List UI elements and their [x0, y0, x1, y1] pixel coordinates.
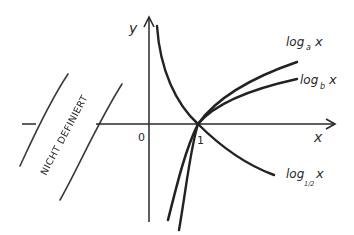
label-log-half-arg: x — [315, 166, 324, 181]
undefined-region-right-border — [60, 84, 122, 200]
y-axis-label: y — [128, 20, 138, 36]
label-log-half-sub: 1/2 — [304, 180, 314, 188]
label-log-a-base: log — [286, 35, 305, 49]
curve-log-b — [179, 79, 297, 230]
y-axis: y — [128, 17, 154, 222]
curve-log-half — [157, 26, 274, 175]
label-log-a-sub: a — [306, 43, 311, 52]
label-log-b-arg: x — [328, 72, 337, 87]
x-axis-label: x — [313, 129, 323, 145]
origin-label: 0 — [138, 131, 145, 144]
undefined-region: NICHT DEFINIERT — [20, 74, 122, 200]
label-log-half-base: log — [286, 167, 305, 181]
undefined-region-label: NICHT DEFINIERT — [38, 93, 90, 177]
label-log-b: log b x — [300, 72, 337, 91]
one-label: 1 — [197, 134, 204, 147]
label-log-half: log 1/2 x — [286, 166, 324, 188]
label-log-a: log a x — [286, 34, 323, 52]
label-log-b-sub: b — [320, 82, 325, 91]
label-log-b-base: log — [300, 73, 319, 87]
diagram-svg: NICHT DEFINIERT x y 0 1 log a x — [0, 0, 354, 235]
log-functions-diagram: NICHT DEFINIERT x y 0 1 log a x — [0, 0, 354, 235]
label-log-a-arg: x — [314, 34, 323, 49]
curve-log-a — [168, 62, 297, 220]
